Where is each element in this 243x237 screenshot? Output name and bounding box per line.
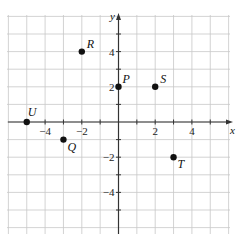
point-label: R [86,37,95,51]
y-tick-label: −2 [103,151,115,163]
point-dot-icon [152,84,158,90]
y-tick-label: 4 [109,46,115,58]
y-tick-label: 2 [109,81,115,93]
point-label: U [28,105,38,119]
y-tick-label: −4 [103,186,115,198]
point-dot-icon [24,119,30,125]
x-tick-label: −2 [76,125,88,137]
point-q: Q [60,136,76,153]
x-axis-label: x [229,124,235,136]
point-label: T [178,157,186,171]
y-axis-label: y [109,10,115,22]
point-dot-icon [79,48,85,54]
point-dot-icon [115,84,121,90]
point-label: S [160,72,166,86]
point-dot-icon [60,136,66,142]
point-t: T [170,154,185,171]
point-label: P [122,72,131,86]
point-p: P [115,72,130,90]
coordinate-plane: x y −4−22442−2−4 PRSUQT [0,0,243,237]
x-tick-label: 4 [189,125,195,137]
point-r: R [79,37,95,55]
point-dot-icon [170,154,176,160]
point-s: S [152,72,166,90]
point-label: Q [67,140,76,154]
x-tick-label: 2 [152,125,158,137]
x-tick-label: −4 [39,125,51,137]
